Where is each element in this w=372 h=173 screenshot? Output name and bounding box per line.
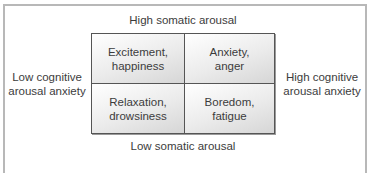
axis-label-high-cognitive-text: High cognitive arousal anxiety xyxy=(283,71,360,97)
quadrant-label: Boredom, fatigue xyxy=(205,95,255,123)
quadrant-excitement-happiness: Excitement, happiness xyxy=(92,34,185,84)
quadrant-relaxation-drowsiness: Relaxation, drowsiness xyxy=(92,84,185,133)
axis-label-low-cognitive: Low cognitive arousal anxiety xyxy=(4,70,90,98)
quadrant-label: Excitement, happiness xyxy=(108,45,168,73)
quadrant-grid: Excitement, happiness Anxiety, anger Rel… xyxy=(91,33,275,134)
quadrant-anxiety-anger: Anxiety, anger xyxy=(185,34,274,84)
quadrant-boredom-fatigue: Boredom, fatigue xyxy=(185,84,274,133)
quadrant-label: Relaxation, drowsiness xyxy=(109,95,167,123)
quadrant-label: Anxiety, anger xyxy=(209,45,249,73)
axis-label-low-somatic: Low somatic arousal xyxy=(91,139,275,153)
axis-label-high-cognitive: High cognitive arousal anxiety xyxy=(278,70,366,98)
axis-label-high-somatic: High somatic arousal xyxy=(91,13,275,27)
axis-label-low-cognitive-text: Low cognitive arousal anxiety xyxy=(8,71,85,97)
